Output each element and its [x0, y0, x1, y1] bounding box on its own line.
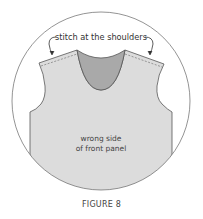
callout-label: stitch at the shoulders: [55, 32, 147, 42]
figure-diagram: stitch at the shoulders wrong side of fr…: [0, 0, 203, 219]
panel-label-line2: of front panel: [76, 144, 127, 153]
figure-caption: FIGURE 8: [0, 200, 203, 209]
front-panel: [30, 50, 172, 200]
panel-label-line1: wrong side: [81, 134, 122, 143]
